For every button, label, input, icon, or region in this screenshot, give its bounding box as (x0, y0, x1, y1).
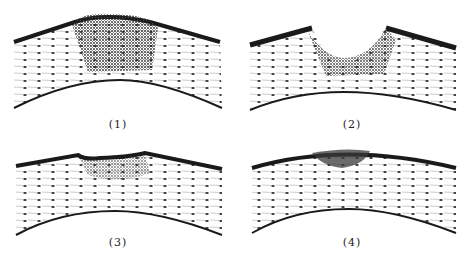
tissue-section-illustration (234, 0, 468, 133)
panel-3: (3) (0, 133, 234, 266)
panel-label: (2) (332, 118, 372, 131)
tissue-section-illustration (0, 0, 234, 133)
panel-label: (1) (98, 118, 138, 131)
panel-2: (2) (234, 0, 468, 133)
panel-label: (3) (98, 236, 138, 249)
panel-label: (4) (332, 236, 372, 249)
panel-1: (1) (0, 0, 234, 133)
panel-4: (4) (234, 133, 468, 266)
